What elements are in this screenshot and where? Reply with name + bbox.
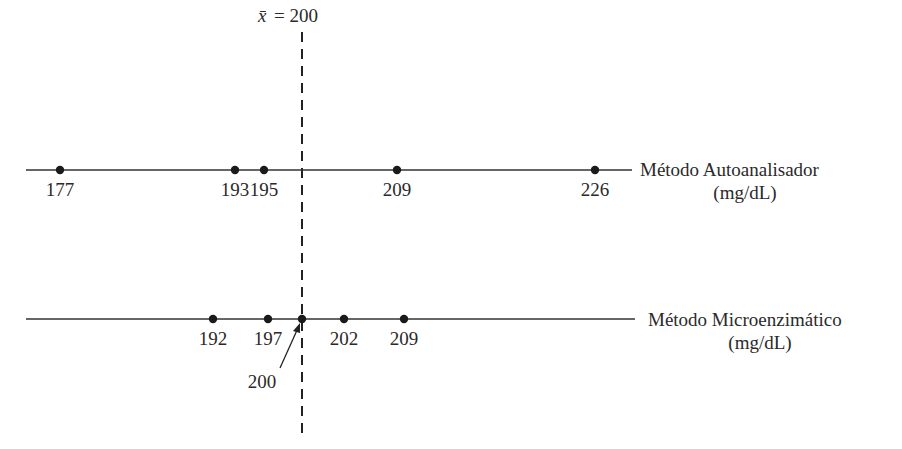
row-autoanalisador: 177193195209226 Método Autoanalisador (m… xyxy=(26,159,820,204)
data-point xyxy=(260,166,268,174)
row-unit-autoanalisador: (mg/dL) xyxy=(713,182,776,204)
data-point xyxy=(400,315,408,323)
data-point-label: 193 xyxy=(221,179,250,200)
data-point-label: 226 xyxy=(581,179,610,200)
data-point-label: 197 xyxy=(254,328,283,349)
data-point-label: 192 xyxy=(199,328,228,349)
data-point xyxy=(591,166,599,174)
data-point xyxy=(393,166,401,174)
data-point-label: 209 xyxy=(390,328,419,349)
row-microenzimatico: 192197200202209 Método Microenzimático (… xyxy=(26,309,842,392)
svg-text:= 200: = 200 xyxy=(274,5,318,26)
row-unit-microenzimatico: (mg/dL) xyxy=(728,332,791,354)
data-point-label: 195 xyxy=(250,179,279,200)
data-point xyxy=(209,315,217,323)
row-label-autoanalisador: Método Autoanalisador xyxy=(640,159,820,180)
data-point-label: 177 xyxy=(46,179,75,200)
dot-plot-diagram: x̄ = 200 177193195209226 Método Autoanal… xyxy=(0,0,902,449)
data-point xyxy=(264,315,272,323)
data-point xyxy=(340,315,348,323)
arrow-200 xyxy=(280,328,298,368)
row-label-microenzimatico: Método Microenzimático xyxy=(648,309,842,330)
arrowhead-icon xyxy=(293,323,300,333)
data-point-label: 209 xyxy=(383,179,412,200)
data-point xyxy=(231,166,239,174)
data-point-label: 202 xyxy=(330,328,359,349)
data-point xyxy=(56,166,64,174)
data-point-label: 200 xyxy=(248,371,277,392)
data-point xyxy=(298,315,306,323)
svg-text:x̄: x̄ xyxy=(257,5,267,26)
mean-label: x̄ = 200 xyxy=(257,5,318,26)
